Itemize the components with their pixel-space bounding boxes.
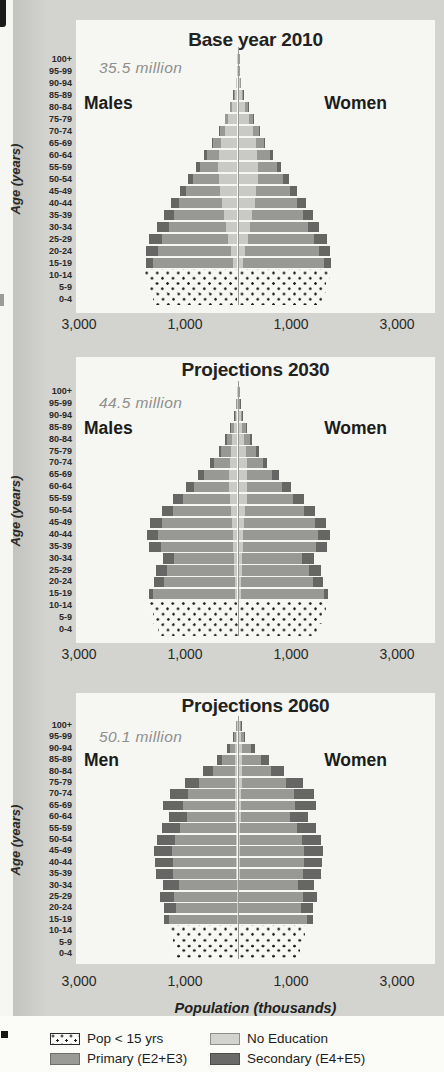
bar-segment — [183, 801, 235, 811]
female-bar — [239, 778, 304, 788]
bar-segment — [173, 494, 183, 504]
female-bar — [239, 66, 240, 76]
female-bar — [239, 506, 316, 516]
male-bar — [196, 162, 238, 172]
female-bar — [239, 732, 246, 742]
bar-segment — [231, 446, 238, 456]
male-bar — [169, 812, 237, 822]
bar-segment — [316, 542, 328, 552]
bar-segment — [149, 234, 162, 244]
bar-segment — [272, 470, 278, 480]
bar-segment — [147, 530, 159, 540]
bar-segment — [303, 210, 313, 220]
male-bar — [188, 174, 238, 184]
x-tick-label: 3,000 — [61, 317, 96, 332]
bar-segment — [239, 150, 258, 160]
bar-segment — [232, 434, 237, 444]
bar-segment — [232, 518, 238, 528]
male-bar — [170, 789, 238, 799]
age-label: 75-79 — [20, 113, 72, 125]
age-label: 15-19 — [20, 588, 72, 600]
bar-segment — [235, 778, 238, 788]
x-tick-label: 3,000 — [379, 974, 414, 989]
male-bar — [157, 835, 238, 845]
bar-segment — [176, 903, 237, 913]
age-label: 65-69 — [20, 469, 72, 481]
age-label: 45-49 — [20, 845, 72, 856]
female-bar — [239, 162, 281, 172]
male-bar — [212, 138, 237, 148]
bar-segment — [225, 126, 238, 136]
bar-segment — [154, 577, 164, 587]
bar-segment — [219, 150, 237, 160]
male-bar — [150, 518, 237, 528]
male-bar — [163, 880, 237, 890]
women-label: Women — [324, 751, 387, 769]
bar-segment — [250, 222, 307, 232]
female-bar — [239, 530, 331, 540]
bar-segment — [256, 138, 264, 148]
bar-segment — [234, 423, 237, 433]
male-bar — [160, 892, 238, 902]
age-label: 85-89 — [20, 754, 72, 765]
bar-segment — [243, 542, 316, 552]
bar-segment — [255, 198, 298, 208]
bar-segment — [213, 766, 235, 776]
bar-segment — [233, 542, 237, 552]
female-bar — [239, 915, 313, 925]
bar-segment — [243, 258, 323, 268]
light-swatch-icon — [210, 1033, 240, 1045]
bar-segment — [247, 458, 263, 468]
bar-segment — [303, 892, 318, 902]
bar-segment — [290, 812, 308, 822]
bar-segment — [242, 778, 286, 788]
bar-segment — [173, 858, 237, 868]
age-label: 10-14 — [20, 600, 72, 612]
male-bar — [146, 246, 237, 256]
bar-segment — [236, 78, 237, 88]
age-label: 20-24 — [20, 902, 72, 913]
bar-segment — [239, 458, 247, 468]
male-bar — [186, 482, 238, 492]
chart-title: Projections 2030 — [76, 360, 435, 380]
age-label: 55-59 — [20, 823, 72, 834]
bar-segment — [233, 530, 238, 540]
bar-segment — [154, 846, 172, 856]
bar-segment — [204, 470, 229, 480]
female-bar — [239, 126, 260, 136]
female-bar — [239, 446, 259, 456]
bar-segment — [242, 553, 302, 563]
male-bar — [236, 721, 237, 731]
age-label: 70-74 — [20, 457, 72, 469]
bar-segment — [239, 234, 249, 244]
female-bar — [239, 903, 313, 913]
female-bar — [239, 458, 268, 468]
age-label: 100+ — [20, 386, 72, 398]
bar-segment — [158, 246, 231, 256]
bar-segment — [194, 482, 229, 492]
bar-segment — [229, 482, 237, 492]
bar-segment — [240, 835, 302, 845]
bar-segment — [303, 869, 320, 879]
bar-segment — [163, 553, 174, 563]
male-bar — [149, 589, 238, 599]
age-label: 90-94 — [20, 410, 72, 422]
bar-segment — [163, 801, 183, 811]
male-bar — [217, 755, 238, 765]
bar-segment — [237, 721, 238, 731]
legend-label: Secondary (E4+E5) — [247, 1051, 365, 1066]
bar-segment — [324, 589, 328, 599]
women-label: Women — [324, 94, 387, 112]
bar-segment — [235, 589, 237, 599]
bar-segment — [263, 458, 267, 468]
bar-segment — [171, 198, 179, 208]
bar-segment — [164, 577, 235, 587]
female-bar — [239, 174, 289, 184]
bar-segment — [308, 222, 320, 232]
female-bar — [239, 858, 322, 868]
bar-segment — [175, 835, 236, 845]
bar-segment — [251, 744, 255, 754]
bar-segment — [153, 258, 233, 268]
population-total: 35.5 million — [99, 59, 182, 76]
bar-segment — [180, 186, 187, 196]
